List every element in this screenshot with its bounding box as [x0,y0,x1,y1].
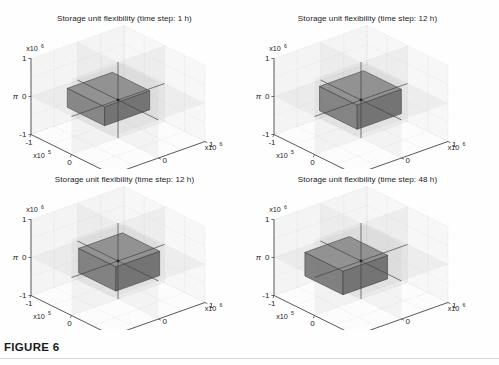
svg-text:π: π [13,253,19,262]
svg-text:x10: x10 [276,151,288,160]
svg-text:π: π [13,92,19,101]
plot-grid: Storage unit flexibility (time step: 1 h… [0,0,499,330]
svg-text:6: 6 [463,141,466,147]
svg-text:6: 6 [463,302,466,308]
svg-text:-1: -1 [25,138,33,147]
plot-svg-1: -101-101-101ρεπx106x105x106 [243,4,492,169]
svg-text:π: π [256,253,262,262]
svg-text:1: 1 [22,215,27,224]
plot-panel-2: Storage unit flexibility (time step: 12 … [0,165,249,330]
svg-text:5: 5 [291,149,294,155]
plot-panel-0: Storage unit flexibility (time step: 1 h… [0,4,249,169]
svg-text:0: 0 [265,253,270,262]
svg-text:6: 6 [220,141,223,147]
svg-text:x10: x10 [26,44,38,53]
svg-text:0: 0 [162,317,167,326]
caption-divider [0,358,499,359]
plot-svg-2: -101-101-101ρεπx106x105x106 [0,165,249,330]
svg-text:0: 0 [405,317,410,326]
plot-svg-3: -101-101-101ρεπx106x105x106 [243,165,492,330]
svg-text:6: 6 [284,204,287,210]
svg-text:x10: x10 [269,44,281,53]
svg-text:-1: -1 [25,299,33,308]
figure-caption: FIGURE 6 [4,341,59,353]
svg-text:5: 5 [48,149,51,155]
svg-text:0: 0 [22,92,27,101]
plot-svg-0: -101-101-101ρεπx106x105x106 [0,4,249,169]
svg-text:x10: x10 [33,312,45,321]
svg-text:-1: -1 [268,299,276,308]
figure-page: Storage unit flexibility (time step: 1 h… [0,0,499,365]
svg-text:1: 1 [265,54,270,63]
svg-text:π: π [256,92,262,101]
svg-text:x10: x10 [205,304,217,313]
svg-text:1: 1 [265,215,270,224]
svg-text:0: 0 [67,319,72,328]
svg-text:x10: x10 [33,151,45,160]
svg-text:0: 0 [162,156,167,165]
svg-text:0: 0 [405,156,410,165]
plot-panel-1: Storage unit flexibility (time step: 12 … [243,4,492,169]
svg-text:x10: x10 [26,205,38,214]
svg-text:0: 0 [22,253,27,262]
svg-text:x10: x10 [276,312,288,321]
svg-text:x10: x10 [205,143,217,152]
svg-text:0: 0 [310,319,315,328]
svg-text:5: 5 [291,310,294,316]
svg-text:-1: -1 [268,138,276,147]
svg-text:x10: x10 [269,205,281,214]
svg-text:6: 6 [41,43,44,49]
svg-text:1: 1 [22,54,27,63]
plot-panel-3: Storage unit flexibility (time step: 48 … [243,165,492,330]
svg-text:6: 6 [41,204,44,210]
svg-text:x10: x10 [448,143,460,152]
svg-text:5: 5 [48,310,51,316]
svg-text:6: 6 [284,43,287,49]
svg-text:x10: x10 [448,304,460,313]
svg-text:6: 6 [220,302,223,308]
svg-text:0: 0 [265,92,270,101]
